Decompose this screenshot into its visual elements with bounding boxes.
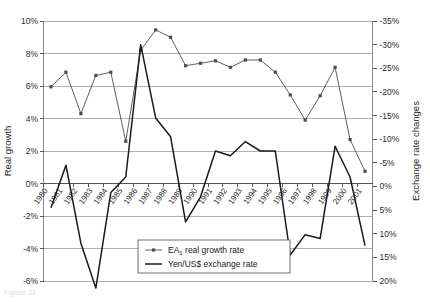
data-point — [289, 93, 292, 96]
y-tick-label-right: 5% — [380, 205, 393, 215]
x-tick-label: 1993 — [226, 186, 244, 206]
figure-container: -6%-4%-2%0%2%4%6%8%10%-35%-30%-25%-20%-1… — [0, 0, 430, 302]
data-point — [229, 66, 232, 69]
x-tick-label: 2000 — [331, 186, 349, 206]
data-point — [348, 138, 351, 141]
x-tick-label: 1980 — [32, 186, 50, 206]
y-tick-label-left: -4% — [23, 244, 39, 254]
data-point — [274, 71, 277, 74]
data-point — [94, 74, 97, 77]
x-tick-label: 1981 — [47, 186, 65, 206]
data-point — [244, 58, 247, 61]
y-axis-title-left: Real growth — [2, 126, 13, 177]
x-tick-label: 1998 — [301, 186, 319, 206]
data-point — [154, 28, 157, 31]
x-tick-label: 1983 — [77, 186, 95, 206]
data-point — [109, 71, 112, 74]
y-tick-label-left: 8% — [26, 49, 39, 59]
x-tick-label: 1995 — [256, 186, 274, 206]
y-tick-label-left: 10% — [21, 16, 38, 26]
data-point — [334, 66, 337, 69]
figure-caption: Figure 11 — [4, 289, 37, 296]
y-tick-label-right: 0% — [380, 181, 393, 191]
data-point — [304, 119, 307, 122]
y-tick-label-left: 2% — [26, 146, 39, 156]
y-tick-label-left: -2% — [23, 211, 39, 221]
data-point — [64, 71, 67, 74]
x-tick-label: 1991 — [197, 186, 215, 206]
y-tick-label-right: -15% — [380, 111, 400, 121]
y-tick-label-left: -6% — [23, 276, 39, 286]
y-tick-label-right: -25% — [380, 63, 400, 73]
data-point — [319, 94, 322, 97]
legend-label-1: Yen/US$ exchange rate — [168, 259, 258, 269]
data-point — [79, 112, 82, 115]
x-tick-label: 1987 — [137, 186, 155, 206]
y-tick-label-right: -30% — [380, 40, 400, 50]
x-tick-label: 1994 — [241, 186, 259, 206]
x-tick-label: 1986 — [122, 186, 140, 206]
series-line-0 — [51, 30, 365, 171]
data-point — [184, 64, 187, 67]
y-axis-title-right: Exchange rate changes — [410, 101, 421, 201]
x-tick-label: 1992 — [211, 186, 229, 206]
y-tick-label-right: -5% — [380, 158, 396, 168]
data-point — [199, 62, 202, 65]
data-point — [259, 58, 262, 61]
data-point — [49, 85, 52, 88]
data-point — [214, 59, 217, 62]
data-point — [363, 170, 366, 173]
y-tick-label-right: 10% — [380, 229, 397, 239]
y-tick-label-right: -20% — [380, 87, 400, 97]
y-tick-label-left: 0% — [26, 179, 39, 189]
legend-marker — [152, 248, 155, 251]
y-tick-label-right: -35% — [380, 16, 400, 26]
x-tick-label: 1997 — [286, 186, 304, 206]
x-tick-label: 1984 — [92, 186, 110, 206]
x-tick-label: 1988 — [152, 186, 170, 206]
y-tick-label-left: 4% — [26, 114, 39, 124]
line-chart: -6%-4%-2%0%2%4%6%8%10%-35%-30%-25%-20%-1… — [0, 0, 430, 302]
data-point — [169, 36, 172, 39]
y-tick-label-right: 15% — [380, 252, 397, 262]
data-point — [124, 140, 127, 143]
y-tick-label-left: 6% — [26, 81, 39, 91]
y-tick-label-right: -10% — [380, 134, 400, 144]
y-tick-label-right: 20% — [380, 276, 397, 286]
